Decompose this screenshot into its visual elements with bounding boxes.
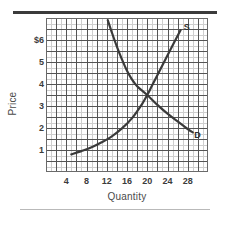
- y-tick-label-5: 5: [18, 57, 44, 67]
- x-tick-label-8: 8: [76, 176, 98, 186]
- supply-demand-figure: Price 12345$6 481216202428 Quantity SD: [0, 14, 229, 206]
- x-tick-label-28: 28: [177, 176, 199, 186]
- x-axis-title: Quantity: [46, 191, 208, 202]
- y-tick-label-4: 4: [18, 79, 44, 89]
- y-axis-tick-labels: 12345$6: [14, 14, 44, 172]
- curve-d: [108, 20, 193, 132]
- chart-page: Price 12345$6 481216202428 Quantity SD: [0, 0, 229, 226]
- x-tick-label-16: 16: [116, 176, 138, 186]
- y-tick-label-3: 3: [18, 101, 44, 111]
- x-tick-label-20: 20: [136, 176, 158, 186]
- y-tick-label-2: 2: [18, 123, 44, 133]
- x-axis-tick-labels: 481216202428: [46, 176, 208, 190]
- x-tick-label-12: 12: [96, 176, 118, 186]
- curve-label-s: S: [184, 22, 190, 32]
- curve-label-d: D: [194, 130, 201, 140]
- x-tick-label-24: 24: [157, 176, 179, 186]
- plot-area: [46, 18, 208, 172]
- y-tick-label-6: $6: [18, 35, 44, 45]
- bottom-divider-rule: [20, 209, 210, 210]
- x-tick-label-4: 4: [55, 176, 77, 186]
- y-tick-label-1: 1: [18, 145, 44, 155]
